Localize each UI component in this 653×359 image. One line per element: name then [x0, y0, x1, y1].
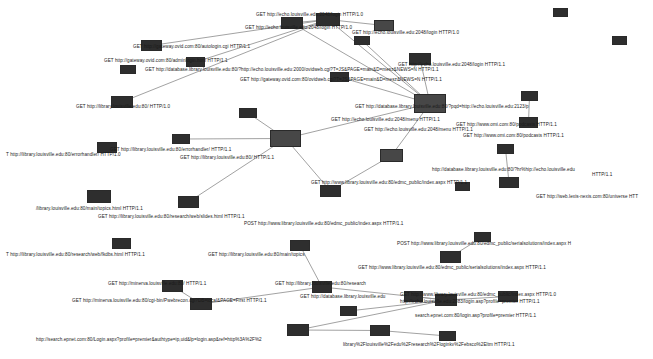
graph-node-label: T http://library.louisville.edu:80/resea…: [6, 252, 145, 257]
graph-node-label: http://database.library.louisville.edu:8…: [432, 167, 575, 172]
graph-node-label: GET http://www.omi.com:80/podcasts HTTP/…: [463, 133, 564, 138]
graph-node-label: GET http://library.louisville.edu:80/res…: [275, 281, 366, 286]
graph-edge: [298, 330, 380, 331]
graph-node-label: GET http://web.lexis-nexis.com:80/univer…: [536, 194, 638, 199]
graph-node[interactable]: [320, 185, 341, 197]
graph-node-label: GET http://echo.louisville.edu:2048/logi…: [352, 30, 459, 35]
graph-node-label: library%2Flouisville%2Fedu%2Fresearch%2F…: [343, 342, 515, 347]
graph-node-label: GET http://www.library.louisville.edu:80…: [311, 180, 467, 185]
graph-node-label: /library.louisville.edu:80/main/topics.h…: [36, 206, 143, 211]
graph-node-label: GET http://echo.louisville.edu:2048/menu…: [364, 127, 473, 132]
graph-node-label: GET http://library.louisville.edu:80/mai…: [208, 252, 305, 257]
graph-node[interactable]: [120, 65, 136, 74]
graph-node-label: POST http://www.library.louisville.edu:8…: [244, 221, 403, 226]
graph-node-label: GET http://minerva.louisville.edu:80/cgi…: [72, 298, 267, 303]
graph-node[interactable]: [290, 240, 310, 251]
graph-node[interactable]: [612, 36, 627, 45]
graph-node-label: GET http://echo.louisville.edu:2048/menu…: [331, 117, 440, 122]
graph-node[interactable]: [287, 324, 309, 336]
graph-node[interactable]: [380, 149, 403, 162]
graph-node[interactable]: [440, 251, 461, 263]
graph-node-label: GET http://echo.louisville.edu:2048/logi…: [256, 12, 363, 17]
graph-node-label: GET http://www.library.louisville.edu:80…: [358, 265, 546, 270]
graph-edge: [380, 331, 448, 337]
graph-node-label: GET http://echo.louisville.edu:2048/logi…: [398, 62, 505, 67]
graph-node-label: GET http://library.louisville.edu:80/ HT…: [180, 155, 274, 160]
graph-node-label: GET http://database.library.louisville.e…: [145, 67, 439, 72]
graph-node-label: GET http://minerva.louisville.edu:80/ HT…: [108, 281, 206, 286]
graph-node[interactable]: [270, 130, 301, 147]
graph-node-label: http://search.epnet.com:80/Login.aspx?pr…: [36, 337, 262, 342]
graph-node[interactable]: [172, 134, 190, 144]
graph-node-label: POST http://www.library.louisville.edu:8…: [397, 241, 571, 246]
graph-node-label: http://echo.louisville.edu:2083/login.as…: [400, 299, 540, 304]
graph-node-label: GET http://database.library.louisville.e…: [355, 104, 529, 109]
graph-node-label: GET http://www.library.louisville.edu:80…: [400, 292, 556, 297]
graph-node-label: GET http://gateway.ovid.com:80/autologin…: [133, 44, 250, 49]
graph-node[interactable]: [439, 331, 456, 341]
graph-node-label: GET http://database.library.louisville.e…: [300, 294, 385, 299]
graph-node[interactable]: [497, 144, 514, 154]
graph-node-label: GET http://gateway.ovid.com:80/ovidweb.c…: [240, 77, 442, 82]
graph-node-label: T http://library.louisville.edu:80/error…: [6, 152, 121, 157]
graph-node-label: HTTP/1.1: [592, 172, 612, 177]
graph-node-label: GET http://gateway.ovid.com:80/adminlogi…: [104, 58, 228, 63]
graph-node[interactable]: [112, 238, 131, 249]
graph-node[interactable]: [499, 177, 519, 188]
graph-node[interactable]: [87, 190, 111, 203]
graph-node[interactable]: [354, 36, 370, 45]
graph-node-label: GET http://library.louisville.edu:80/err…: [110, 147, 232, 152]
graph-node[interactable]: [178, 196, 199, 208]
graph-node-label: GET http://library.louisville.edu:80/ HT…: [76, 104, 170, 109]
graph-node[interactable]: [370, 325, 390, 336]
graph-node[interactable]: [239, 108, 257, 118]
network-graph-canvas[interactable]: GET http://echo.louisville.edu:2048/logi…: [0, 0, 653, 359]
graph-node-label: GET http://echo.louisville.edu:2048/logi…: [245, 25, 352, 30]
graph-node[interactable]: [340, 306, 357, 316]
graph-node-label: search.epnet.com:80/login.asp?profile=pr…: [415, 313, 536, 318]
graph-node[interactable]: [553, 8, 568, 17]
graph-node[interactable]: [521, 91, 538, 101]
graph-node-label: GET http://library.louisville.edu:80/res…: [98, 214, 245, 219]
